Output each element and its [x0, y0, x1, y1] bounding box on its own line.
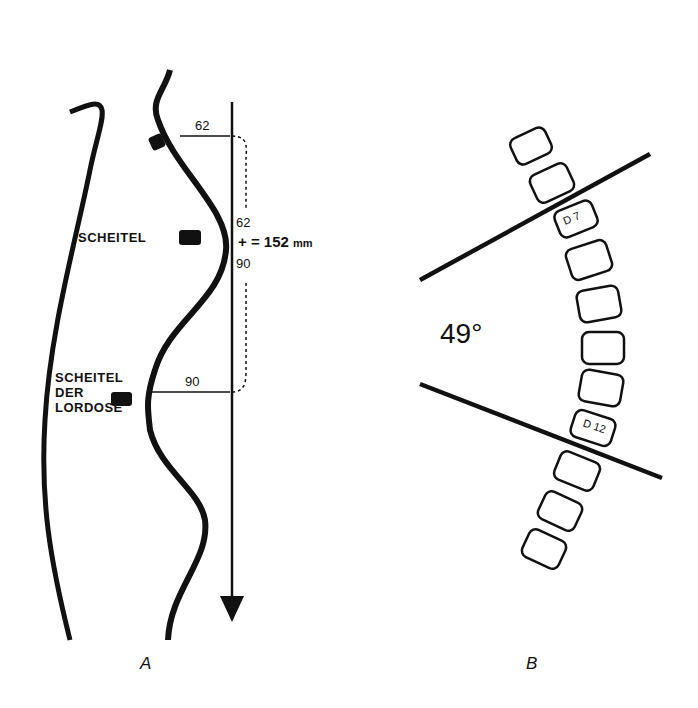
caption-a: A [140, 654, 151, 674]
marker-scheitel [179, 230, 201, 245]
angle-line-upper [420, 154, 650, 280]
diagram-canvas [0, 0, 698, 708]
scheitel-label: SCHEITEL [78, 230, 146, 245]
sum-equation: + = 152 mm [238, 233, 313, 250]
vertebrae [508, 125, 625, 571]
sum-bottom: 90 [236, 256, 250, 271]
sum-top: 62 [236, 215, 250, 230]
distance-bottom-label: 90 [185, 374, 199, 389]
caption-b: B [526, 654, 537, 674]
angle-label: 49° [440, 318, 482, 350]
angle-line-lower [420, 384, 662, 478]
distance-top-label: 62 [195, 118, 209, 133]
lordose-label: SCHEITELDERLORDOSE [55, 370, 123, 415]
plumb-arrow [220, 596, 244, 622]
back-contour [148, 70, 226, 640]
